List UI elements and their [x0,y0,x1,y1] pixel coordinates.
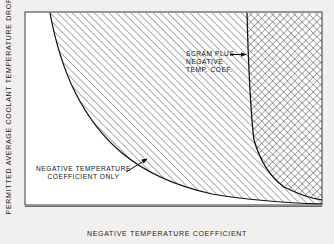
permitted-coolant-temperature-drop-chart [0,0,334,244]
annotation-ntc-line-2: COEFFICIENT ONLY [36,173,131,181]
y-axis-title: PERMITTED AVERAGE COOLANT TEMPERATURE DR… [2,0,16,228]
annotation-scram-line-2: NEGATIVE [186,58,234,66]
annotation-negative-temperature-coefficient-only: NEGATIVE TEMPERATURE COEFFICIENT ONLY [36,165,131,181]
annotation-scram-plus-negative-temp-coef: SCRAM PLUS NEGATIVE TEMP. COEF. [186,50,234,75]
x-axis-title: NEGATIVE TEMPERATURE COEFFICIENT [0,230,334,237]
annotation-ntc-line-1: NEGATIVE TEMPERATURE [36,165,131,173]
annotation-scram-line-3: TEMP. COEF. [186,66,234,74]
annotation-scram-line-1: SCRAM PLUS [186,50,234,58]
